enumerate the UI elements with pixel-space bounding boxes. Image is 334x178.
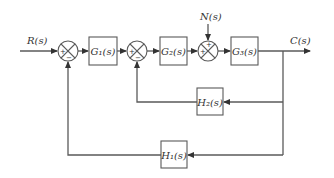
block-g3-label: G₃(s) xyxy=(232,46,257,57)
summing-junction-3: + + xyxy=(198,41,218,61)
block-g2-label: G₂(s) xyxy=(161,46,186,57)
sum2-minus-sign: − xyxy=(135,54,141,62)
block-g1: G₁(s) xyxy=(89,37,117,65)
disturbance-signal-label: N(s) xyxy=(199,11,222,22)
block-h1-label: H₁(s) xyxy=(160,150,187,161)
sum1-minus-sign: − xyxy=(66,54,72,62)
output-signal-label: C(s) xyxy=(290,35,311,46)
summing-junction-2: + − xyxy=(127,41,147,62)
block-g2: G₂(s) xyxy=(160,37,187,65)
block-h2: H₂(s) xyxy=(196,88,223,115)
block-h2-label: H₂(s) xyxy=(196,97,223,108)
block-h1: H₁(s) xyxy=(160,141,187,168)
wire-h1-to-sum1 xyxy=(68,62,161,155)
input-signal-label: R(s) xyxy=(26,35,48,46)
block-g3: G₃(s) xyxy=(231,37,258,65)
sum3-plus-sign-top: + xyxy=(206,41,212,49)
sum3-plus-sign-left: + xyxy=(200,48,206,56)
summing-junction-1: + − xyxy=(58,41,78,62)
wire-h2-to-sum2 xyxy=(137,62,197,102)
block-diagram: R(s) + − G₁(s) + − G₂(s) N(s) + + xyxy=(0,0,334,178)
block-g1-label: G₁(s) xyxy=(91,46,116,57)
